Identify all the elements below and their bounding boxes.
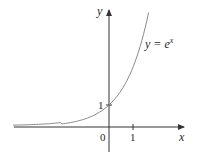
x-tick-label-1: 1 (130, 131, 136, 143)
exponential-function-graph: y x 0 1 1 y = ex (0, 0, 198, 160)
exponential-curve (13, 12, 149, 125)
function-label-base: y = e (144, 37, 170, 51)
y-tick-label-1: 1 (98, 99, 104, 111)
chart-canvas: y x 0 1 1 y = ex (0, 0, 198, 160)
origin-label: 0 (100, 131, 106, 143)
function-label: y = ex (144, 36, 174, 51)
y-axis-label: y (96, 4, 103, 18)
x-axis-label: x (178, 130, 185, 144)
function-label-exponent: x (169, 36, 174, 45)
